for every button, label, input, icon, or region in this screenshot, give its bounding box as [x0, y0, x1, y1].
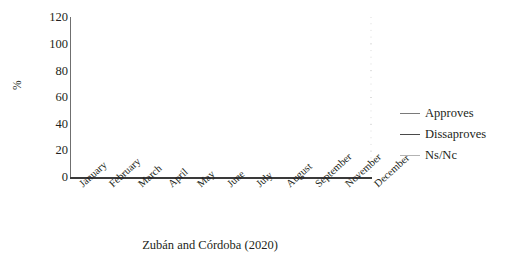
- y-tick-120: 120: [49, 11, 68, 24]
- x-axis-tick-labels: JanuaryFebruaryMarchAprilMayJuneJulyAugu…: [70, 181, 380, 243]
- figure-caption: Zubán and Córdoba (2020): [0, 238, 420, 252]
- y-tick-60: 60: [56, 91, 69, 104]
- legend-label: Approves: [425, 107, 474, 120]
- y-tick-100: 100: [49, 38, 68, 51]
- y-tick-0: 0: [62, 171, 68, 184]
- legend-label: Ns/Nc: [425, 149, 457, 162]
- plot-area: [70, 17, 370, 178]
- legend-item-dissaproves[interactable]: Dissaproves: [400, 124, 508, 145]
- legend-item-ns-nc[interactable]: Ns/Nc: [400, 145, 508, 166]
- plot-background: [70, 17, 370, 178]
- legend-swatch-icon: [400, 113, 420, 114]
- y-axis-line: [70, 17, 71, 178]
- y-axis-tick-labels: 120 100 80 60 40 20 0: [24, 0, 68, 268]
- legend-item-approves[interactable]: Approves: [400, 103, 508, 124]
- y-tick-40: 40: [56, 118, 69, 131]
- y-tick-80: 80: [56, 65, 69, 78]
- legend-swatch-icon: [400, 134, 420, 135]
- y-axis-title: %: [12, 80, 24, 90]
- y-tick-20: 20: [56, 144, 69, 157]
- chart-legend: ApprovesDissaprovesNs/Nc: [400, 103, 508, 166]
- figure: % 120 100 80 60 40 20 0 JanuaryFebruaryM…: [0, 0, 508, 268]
- legend-swatch-icon: [400, 155, 420, 156]
- legend-label: Dissaproves: [425, 128, 486, 141]
